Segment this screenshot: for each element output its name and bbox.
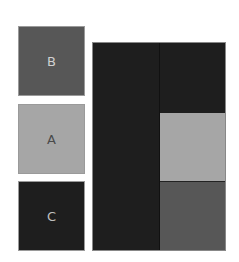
tile-a[interactable]: A bbox=[18, 104, 85, 174]
tile-c[interactable]: C bbox=[18, 181, 85, 251]
tile-c-label: C bbox=[47, 209, 56, 224]
tile-b[interactable]: B bbox=[18, 26, 85, 96]
board-slot-bottom[interactable] bbox=[160, 182, 225, 250]
board-left-column bbox=[93, 43, 160, 250]
board-slot-top[interactable] bbox=[160, 43, 225, 113]
board-slot-middle[interactable] bbox=[160, 113, 225, 182]
tile-a-label: A bbox=[47, 132, 56, 147]
tile-b-label: B bbox=[47, 54, 56, 69]
target-board bbox=[92, 42, 226, 251]
